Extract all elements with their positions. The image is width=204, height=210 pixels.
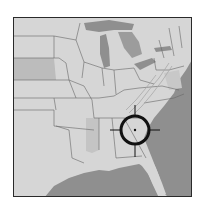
crosshair-target[interactable] (0, 0, 204, 210)
crosshair-center-dot (134, 129, 136, 131)
